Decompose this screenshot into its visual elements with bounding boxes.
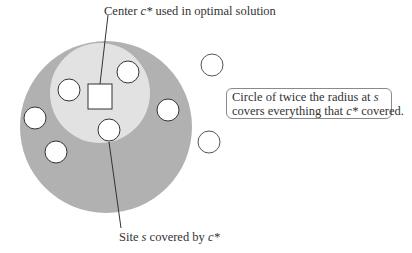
center-label-var: c* — [140, 4, 152, 18]
center-c-star-square — [88, 84, 112, 109]
outside-site-circle — [198, 131, 220, 153]
site-label-prefix: Site — [119, 230, 142, 244]
callout-line1-text: Circle of twice the radius at — [232, 90, 374, 104]
site-label-var2: c* — [208, 230, 220, 244]
callout-line2-var: c* — [346, 104, 358, 118]
center-label-prefix: Center — [104, 4, 140, 18]
callout-line2-suffix: covered. — [358, 104, 404, 118]
center-label: Center c* used in optimal solution — [104, 4, 276, 18]
site-circle — [157, 99, 179, 121]
callout-line1-var: s — [374, 90, 379, 104]
callout-line-1: Circle of twice the radius at s — [232, 90, 386, 104]
callout-box: Circle of twice the radius at s covers e… — [226, 88, 392, 119]
callout-line-2: covers everything that c* covered. — [232, 104, 386, 118]
outside-site-circle — [201, 54, 223, 76]
site-circle — [117, 61, 139, 83]
site-label: Site s covered by c* — [119, 230, 220, 244]
callout-line2-text: covers everything that — [232, 104, 346, 118]
site-circle — [45, 141, 67, 163]
diagram-canvas — [0, 0, 412, 253]
site-label-middle: covered by — [146, 230, 207, 244]
site-s-circle — [98, 119, 120, 141]
center-label-suffix: used in optimal solution — [152, 4, 276, 18]
site-circle — [24, 107, 46, 129]
site-circle — [58, 79, 80, 101]
